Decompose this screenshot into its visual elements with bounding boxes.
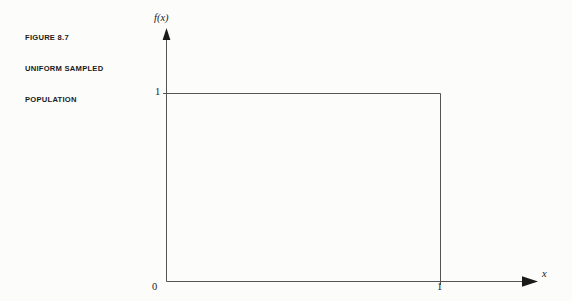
- x-axis-arrowhead: [522, 276, 538, 287]
- uniform-distribution-plot: [0, 0, 572, 301]
- x-axis-label: x: [542, 268, 547, 279]
- y-axis-label: f(x): [154, 12, 169, 23]
- y-tick-label-1: 1: [155, 86, 160, 97]
- figure-page: FIGURE 8.7 UNIFORM SAMPLED POPULATION f(…: [0, 0, 572, 301]
- y-axis-arrowhead: [163, 28, 171, 40]
- origin-label: 0: [152, 281, 157, 292]
- x-tick-label-1: 1: [437, 281, 442, 292]
